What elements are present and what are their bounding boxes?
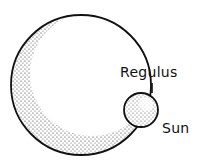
regulus-star [0,0,207,168]
regulus-label: Regulus [120,65,178,79]
sun-label: Sun [162,121,190,135]
diagram-canvas [0,0,207,168]
sun-star [124,93,158,127]
